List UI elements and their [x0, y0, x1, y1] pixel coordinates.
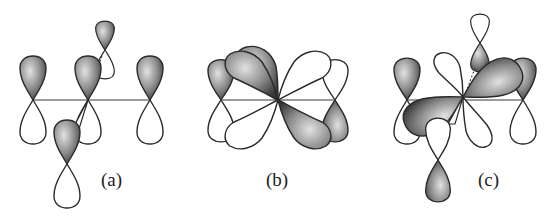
- panel-b: (b): [208, 46, 348, 191]
- panel-label-b: (b): [266, 169, 288, 191]
- p-orbital-top: [471, 14, 490, 72]
- d-orbital-center: [225, 46, 331, 148]
- panel-label-a: (a): [101, 169, 122, 191]
- p-orbital-bottom: [54, 120, 80, 208]
- orbital-diagram: (a) (b): [0, 0, 553, 222]
- panel-label-c: (c): [478, 169, 499, 191]
- p-orbital-bottom: [426, 118, 451, 202]
- panel-a: (a): [20, 21, 163, 208]
- panel-c: (c): [394, 14, 536, 202]
